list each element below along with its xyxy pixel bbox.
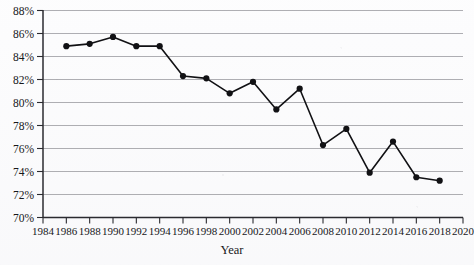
x-axis-tick-label: 2014	[382, 225, 405, 237]
data-point-marker	[110, 34, 116, 40]
x-axis-tick-label: 2016	[405, 225, 428, 237]
x-axis-tick-label: 1994	[149, 225, 172, 237]
y-axis-tick-label: 74%	[13, 166, 35, 178]
data-point-marker	[133, 43, 139, 49]
data-point-marker	[63, 43, 69, 49]
chart-container: 70%72%74%76%78%80%82%84%86%88% 198419861…	[0, 0, 474, 265]
data-point-marker	[437, 178, 443, 184]
data-point-marker	[273, 106, 279, 112]
x-axis-title: Year	[220, 243, 244, 257]
data-point-marker	[320, 142, 326, 148]
y-axis-tick-label: 86%	[13, 28, 35, 40]
data-point-marker	[390, 139, 396, 145]
data-point-marker	[413, 174, 419, 180]
y-axis-tick-label: 88%	[13, 5, 35, 17]
x-axis-tick-label: 1998	[195, 225, 218, 237]
x-axis-tick-label: 2006	[289, 225, 312, 237]
x-axis-tick-label: 1984	[32, 225, 55, 237]
series-line-path	[66, 37, 439, 181]
x-axis-tick-label: 2010	[335, 225, 358, 237]
y-axis-tick-label: 84%	[13, 51, 35, 63]
x-axis-tick-label: 2020	[452, 225, 474, 237]
data-point-marker	[343, 126, 349, 132]
gridlines-group	[43, 11, 463, 195]
x-axis-tick-label: 1992	[125, 225, 147, 237]
x-axis-tick-label: 1988	[79, 225, 102, 237]
x-axis-tick-label: 2018	[429, 225, 452, 237]
y-axis-tick-label: 78%	[13, 120, 35, 132]
y-axis-tick-label: 70%	[13, 212, 35, 224]
y-axis-tick-label: 76%	[13, 143, 35, 155]
data-point-marker	[180, 73, 186, 79]
x-axis-tick-label: 1986	[55, 225, 78, 237]
y-axis-group: 70%72%74%76%78%80%82%84%86%88%	[13, 5, 43, 224]
x-axis-group: 1984198619881990199219941996199820002002…	[32, 218, 474, 238]
data-point-marker	[227, 90, 233, 96]
x-axis-tick-label: 2002	[242, 225, 264, 237]
data-point-marker	[297, 86, 303, 92]
data-point-marker	[157, 43, 163, 49]
x-axis-tick-label: 2012	[359, 225, 381, 237]
x-axis-tick-label: 2008	[312, 225, 335, 237]
x-axis-tick-label: 2004	[265, 225, 288, 237]
data-point-marker	[250, 79, 256, 85]
line-chart-plot: 70%72%74%76%78%80%82%84%86%88% 198419861…	[0, 0, 474, 265]
y-axis-tick-label: 72%	[13, 189, 35, 201]
data-point-marker	[203, 75, 209, 81]
x-axis-tick-label: 2000	[219, 225, 242, 237]
y-axis-tick-label: 80%	[13, 97, 35, 109]
data-point-marker	[87, 41, 93, 47]
x-axis-tick-label: 1996	[172, 225, 195, 237]
y-axis-tick-label: 82%	[13, 74, 35, 86]
data-point-marker	[367, 170, 373, 176]
x-axis-tick-label: 1990	[102, 225, 125, 237]
